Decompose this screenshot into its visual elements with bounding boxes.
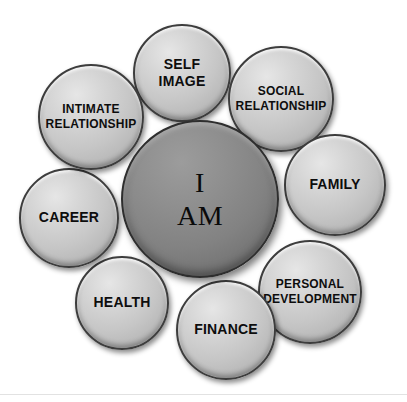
center-label-line-1: I [195,167,205,198]
satellite-label-line-2: DEVELOPMENT [263,292,357,306]
satellite-label-line-1: SELF [164,56,201,72]
satellite-circle-family[interactable]: FAMILY [284,134,386,236]
satellite-label-intimate-relationship: INTIMATERELATIONSHIP [42,102,141,131]
satellite-label-line-2: RELATIONSHIP [236,99,327,113]
satellite-circle-finance[interactable]: FINANCE [176,280,276,380]
satellite-label-personal-development: PERSONALDEVELOPMENT [259,277,361,306]
satellite-label-line-1: CAREER [39,209,99,225]
satellite-circle-career[interactable]: CAREER [19,168,119,268]
diagram-canvas: SELFIMAGESOCIALRELATIONSHIPFAMILYPERSONA… [0,0,407,402]
satellite-label-finance: FINANCE [190,321,262,338]
satellite-label-self-image: SELFIMAGE [155,56,210,90]
satellite-label-line-1: HEALTH [94,294,151,310]
satellite-circle-intimate-relationship[interactable]: INTIMATERELATIONSHIP [38,64,144,170]
satellite-label-line-1: FAMILY [309,176,360,192]
satellite-label-family: FAMILY [305,176,364,193]
satellite-label-line-2: IMAGE [159,73,206,89]
center-circle-i-am[interactable]: I AM [121,120,279,278]
satellite-label-line-1: FINANCE [194,321,258,337]
satellite-label-line-1: SOCIAL [258,84,305,98]
satellite-label-line-1: INTIMATE [62,102,119,116]
satellite-label-career: CAREER [35,209,103,226]
satellite-label-line-2: RELATIONSHIP [46,117,137,131]
satellite-circle-self-image[interactable]: SELFIMAGE [133,24,231,122]
satellite-label-line-1: PERSONAL [276,277,344,291]
bottom-divider [0,394,407,395]
center-label-line-2: AM [177,200,223,231]
satellite-label-health: HEALTH [90,294,155,311]
center-circle-label: I AM [177,166,223,232]
satellite-label-social-relationship: SOCIALRELATIONSHIP [232,84,331,113]
satellite-circle-health[interactable]: HEALTH [75,256,169,350]
